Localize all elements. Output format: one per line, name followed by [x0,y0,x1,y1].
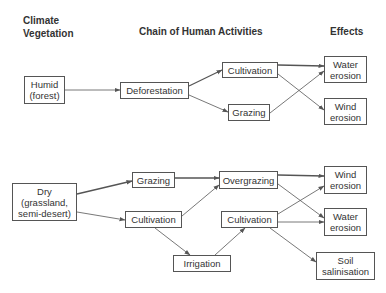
arrow-cultivation-to-wind-erosion [278,186,324,214]
node-humid-forest: Humid (forest) [24,76,65,104]
arrow-dry-to-grazing [77,181,132,194]
node-water-erosion-dry: Water erosion [324,208,367,236]
node-dry-grassland: Dry (grassland, semi-desert) [12,183,77,221]
arrow-cultivation-to-soil-salinisation [270,228,316,262]
node-grazing-humid: Grazing [228,104,270,121]
node-deforestation: Deforestation [120,82,189,99]
node-wind-erosion-humid: Wind erosion [324,98,367,125]
arrow-deforestation-to-cultivation [189,70,222,86]
arrow-grazing-to-water-erosion [270,71,324,113]
node-wind-erosion-dry: Wind erosion [324,166,367,194]
node-grazing-dry: Grazing [132,172,175,188]
node-water-erosion-humid: Water erosion [324,56,367,83]
arrow-dry-to-cultivation [77,212,125,220]
connector-arrows [0,0,386,293]
node-cultivation-humid: Cultivation [222,62,278,78]
arrow-overgrazing-to-water-erosion [278,184,324,218]
node-overgrazing: Overgrazing [219,171,278,189]
arrow-cultivation-to-wind-erosion [278,74,324,110]
arrow-deforestation-to-grazing [189,95,228,112]
node-cultivation-dry: Cultivation [125,211,182,228]
arrow-cultivation-to-water-erosion [278,65,324,66]
arrow-irrigation-to-cultivation [215,228,245,255]
human-activities-effects-diagram: Climate Vegetation Chain of Human Activi… [0,0,386,293]
arrow-overgrazing-to-wind-erosion [278,175,324,176]
node-irrigation: Irrigation [173,255,231,272]
arrow-cultivation-to-irrigation [155,228,190,255]
node-soil-salinisation: Soil salinisation [316,252,375,280]
arrow-cultivation-to-overgrazing [182,185,219,216]
node-cultivation-dry-2: Cultivation [221,211,278,228]
